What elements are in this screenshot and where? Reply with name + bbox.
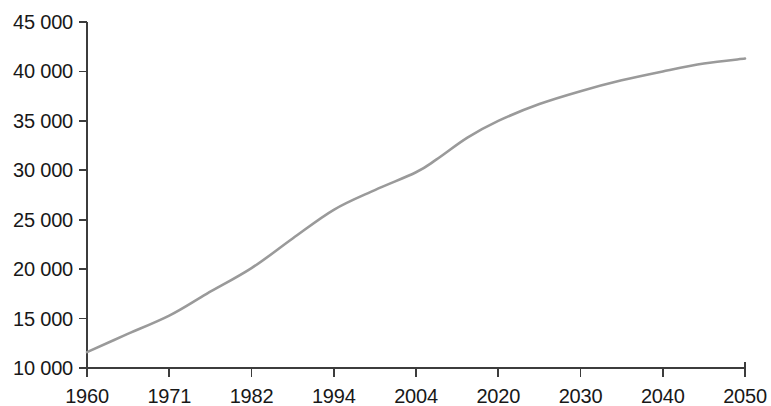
y-axis-tick-label: 10 000 — [13, 358, 73, 378]
line-chart: 10 00015 00020 00025 00030 00035 00040 0… — [0, 0, 771, 406]
x-axis-tick-label: 2004 — [394, 386, 438, 406]
x-axis-tick-label: 1982 — [230, 386, 274, 406]
x-axis-ticks — [87, 368, 745, 377]
x-axis-tick-label: 1971 — [147, 386, 191, 406]
x-axis-tick-label: 2030 — [559, 386, 603, 406]
y-axis-tick-label: 30 000 — [13, 160, 73, 180]
y-axis-tick-label: 25 000 — [13, 210, 73, 230]
y-axis-tick-label: 20 000 — [13, 259, 73, 279]
x-axis-tick-label: 2020 — [476, 386, 520, 406]
x-axis-tick-label: 2040 — [641, 386, 685, 406]
y-axis-tick-label: 45 000 — [13, 12, 73, 32]
y-axis-tick-label: 35 000 — [13, 111, 73, 131]
data-series-line — [87, 59, 745, 353]
x-axis-tick-label: 2050 — [723, 386, 767, 406]
plot-area — [87, 59, 745, 353]
y-axis-ticks — [79, 22, 87, 368]
y-axis-tick-label: 40 000 — [13, 61, 73, 81]
y-axis-tick-label: 15 000 — [13, 309, 73, 329]
chart-canvas — [0, 0, 771, 406]
x-axis-tick-label: 1994 — [312, 386, 356, 406]
x-axis-tick-label: 1960 — [65, 386, 109, 406]
